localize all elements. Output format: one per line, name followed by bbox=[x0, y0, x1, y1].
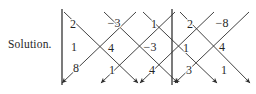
entry-r3c5: 1 bbox=[221, 64, 227, 76]
entry-r1c2: −3 bbox=[108, 17, 121, 29]
entry-r3c3: 4 bbox=[149, 64, 155, 76]
entry-r2c2: 4 bbox=[108, 42, 114, 54]
entry-r1c3: 1 bbox=[151, 18, 157, 30]
entry-r3c4: 3 bbox=[186, 64, 192, 76]
sarrus-determinant-figure: Solution. 2−312−814−31481431 bbox=[0, 0, 256, 94]
entry-r1c5: −8 bbox=[216, 17, 229, 29]
entry-r3c1: 8 bbox=[73, 62, 79, 74]
entry-r2c1: 1 bbox=[71, 41, 77, 53]
entry-r1c1: 2 bbox=[70, 18, 76, 30]
sarrus-diagram bbox=[0, 0, 256, 94]
entry-r1c4: 2 bbox=[187, 18, 193, 30]
entry-r2c4: 1 bbox=[183, 42, 189, 54]
entry-r2c5: 4 bbox=[219, 41, 225, 53]
entry-r2c3: −3 bbox=[144, 41, 157, 53]
entry-r3c2: 1 bbox=[109, 64, 115, 76]
